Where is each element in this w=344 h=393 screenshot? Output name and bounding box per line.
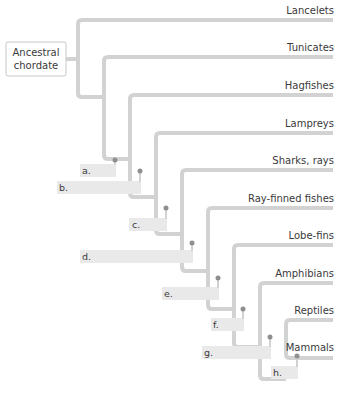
branch-tunicates <box>104 57 333 159</box>
ancestor-label-line1: Ancestral <box>13 47 60 58</box>
node-label-box-b[interactable] <box>57 181 141 194</box>
cladogram: Ancestral chordate Lancelets Tunicates H… <box>0 0 344 393</box>
branch-ray-finned <box>208 208 333 309</box>
node-dot-a <box>113 158 118 163</box>
node-dot-h <box>295 354 300 359</box>
taxon-label-sharks-rays: Sharks, rays <box>272 155 334 166</box>
node-dot-b <box>138 169 143 174</box>
taxon-label-amphibians: Amphibians <box>275 268 334 279</box>
taxon-label-mammals: Mammals <box>286 342 334 353</box>
node-dot-d <box>190 241 195 246</box>
branch-sharks <box>182 170 333 271</box>
taxon-label-reptiles: Reptiles <box>294 305 334 316</box>
node-letter-b: b. <box>59 182 68 193</box>
node-letter-d: d. <box>82 251 91 262</box>
node-letter-g: g. <box>204 347 213 358</box>
node-letter-c: c. <box>132 219 140 230</box>
taxon-label-ray-finned-fishes: Ray-finned fishes <box>248 193 334 204</box>
node-dot-f <box>241 307 246 312</box>
taxon-label-lancelets: Lancelets <box>286 5 334 16</box>
node-letter-h: h. <box>273 367 282 378</box>
node-letter-a: a. <box>82 165 91 176</box>
ancestor-label-line2: chordate <box>14 60 58 71</box>
node-letter-f: f. <box>213 319 219 330</box>
branch-hagfishes <box>130 95 333 197</box>
node-dot-e <box>216 276 221 281</box>
taxon-label-lampreys: Lampreys <box>285 118 334 129</box>
taxon-label-hagfishes: Hagfishes <box>285 80 334 91</box>
node-dot-g <box>268 335 273 340</box>
branch-lobe-fins <box>234 245 333 347</box>
node-letter-e: e. <box>164 288 173 299</box>
node-label-box-d[interactable] <box>80 250 193 263</box>
taxon-label-lobe-fins: Lobe-fins <box>289 230 334 241</box>
node-dot-c <box>164 206 169 211</box>
taxon-label-tunicates: Tunicates <box>286 42 334 53</box>
